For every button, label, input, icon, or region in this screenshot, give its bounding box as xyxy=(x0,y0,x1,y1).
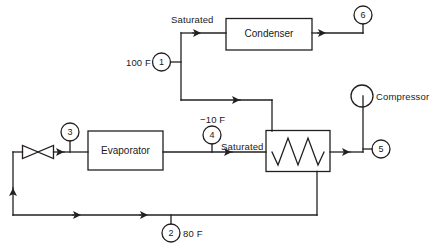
condenser-label: Condenser xyxy=(226,28,312,39)
heat-exchanger-coil xyxy=(272,138,324,165)
temp-80f-label: 80 F xyxy=(183,228,203,239)
temp-minus10f-label: −10 F xyxy=(200,114,225,125)
state-point-2-number: 2 xyxy=(161,223,181,243)
evaporator-label: Evaporator xyxy=(88,145,163,156)
expansion-valve-left-triangle xyxy=(23,146,39,159)
compressor-symbol xyxy=(351,85,373,107)
state-point-1-number: 1 xyxy=(152,52,172,72)
state-point-5-number: 5 xyxy=(371,139,391,159)
refrigeration-cycle-diagram: Condenser Evaporator Compressor Saturate… xyxy=(0,0,438,252)
saturated-mid-label: Saturated xyxy=(221,141,264,152)
expansion-valve-right-triangle xyxy=(38,146,54,159)
saturated-top-label: Saturated xyxy=(171,14,214,25)
state-point-6-number: 6 xyxy=(353,5,373,25)
temp-100f-label: 100 F xyxy=(126,57,151,68)
compressor-label: Compressor xyxy=(376,91,429,102)
state-point-3-number: 3 xyxy=(60,122,80,142)
state-point-4-number: 4 xyxy=(202,125,222,145)
